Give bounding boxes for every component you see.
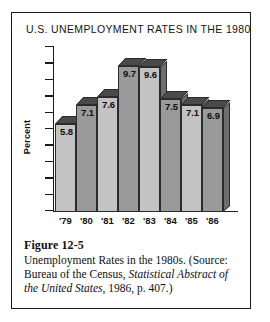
x-axis-tick-label: '81 xyxy=(97,215,118,226)
bar xyxy=(97,97,118,212)
caption-text: Unemployment Rates in the 1980s. (Source… xyxy=(24,253,242,295)
bar-side-face xyxy=(223,102,230,212)
y-axis-tick xyxy=(45,144,54,145)
chart-title: U.S. UNEMPLOYMENT RATES IN THE 1980s xyxy=(26,23,251,35)
y-axis-tick xyxy=(45,79,54,80)
bar-value-label: 6.9 xyxy=(203,110,224,121)
x-axis-tick-label: '86 xyxy=(202,215,223,226)
x-axis-tick-labels: '79'80'81'82'83'84'85'86 xyxy=(55,215,230,229)
y-axis-tick xyxy=(45,128,54,129)
bar-value-label: 7.1 xyxy=(182,107,203,118)
bar-value-label: 7.5 xyxy=(161,101,182,112)
y-axis-tick xyxy=(45,95,54,96)
x-axis-tick-label: '85 xyxy=(181,215,202,226)
caption-source-suffix: , 1986, p. 407.) xyxy=(103,282,173,294)
bar xyxy=(118,66,139,212)
figure-frame: U.S. UNEMPLOYMENT RATES IN THE 1980s Per… xyxy=(11,12,251,309)
bar-series: 5.87.17.69.79.67.57.16.9 xyxy=(55,46,223,212)
bar xyxy=(160,99,181,212)
y-axis-tick xyxy=(45,161,54,162)
bar-value-label: 7.6 xyxy=(98,99,119,110)
bar-value-label: 5.8 xyxy=(56,126,77,137)
y-axis-tick xyxy=(45,112,54,113)
bar xyxy=(139,67,160,212)
bar-value-label: 9.6 xyxy=(140,69,161,80)
bar-value-label: 7.1 xyxy=(77,107,98,118)
bar-value-label: 9.7 xyxy=(119,68,140,79)
y-axis-tick xyxy=(45,46,54,47)
y-axis-tick xyxy=(45,177,54,178)
caption-description: Unemployment Rates in the 1980s. xyxy=(24,254,186,266)
x-axis-tick-label: '79 xyxy=(55,215,76,226)
bar xyxy=(181,105,202,212)
bar xyxy=(76,105,97,212)
chart-plot-area: Percent 5.87.17.69.79.67.57.16.9 '79'80'… xyxy=(26,44,238,232)
bar xyxy=(55,124,76,212)
figure-caption: Figure 12-5 Unemployment Rates in the 19… xyxy=(24,238,242,295)
y-axis-tick xyxy=(45,210,54,211)
y-axis-tick xyxy=(45,62,54,63)
y-axis-tick xyxy=(45,194,54,195)
x-axis-tick-label: '82 xyxy=(118,215,139,226)
x-axis-tick-label: '83 xyxy=(139,215,160,226)
x-axis-tick-label: '80 xyxy=(76,215,97,226)
y-axis-label: Percent xyxy=(22,102,32,172)
bar xyxy=(202,108,223,212)
y-axis-ticks xyxy=(45,46,54,212)
x-axis-tick-label: '84 xyxy=(160,215,181,226)
figure-number: Figure 12-5 xyxy=(24,238,242,252)
